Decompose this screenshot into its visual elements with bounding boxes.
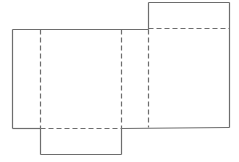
- edge-main-bottom-right: [122, 128, 230, 129]
- box-net-diagram: [0, 0, 239, 162]
- box-net-svg: [0, 0, 239, 162]
